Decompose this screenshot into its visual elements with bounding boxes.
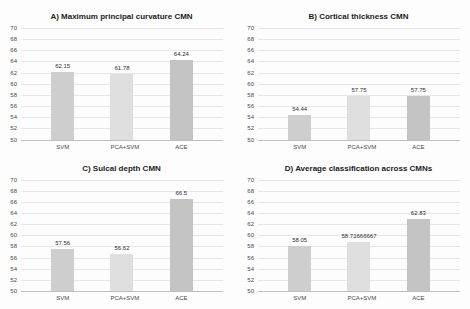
bar-slot-pca-svm: 56.62 [110, 180, 133, 292]
bar-svm [51, 249, 74, 291]
chart-area-d: 7068666462605856545250 58.0558.716666676… [243, 180, 460, 292]
bar-svm [288, 115, 311, 140]
x-axis-line [21, 291, 223, 292]
y-tick-label: 70 [247, 25, 254, 31]
x-axis-line [258, 291, 460, 292]
y-tick-label: 68 [247, 36, 254, 42]
bar-slot-ace: 66.5 [170, 180, 193, 292]
x-axis-line [21, 140, 223, 141]
x-axis: SVMPCA+SVMACE [258, 291, 460, 301]
bars: 57.5656.6266.5 [21, 180, 223, 292]
bar-slot-svm: 57.56 [51, 180, 74, 292]
y-tick-label: 56 [10, 255, 17, 261]
y-tick-label: 54 [10, 266, 17, 272]
bar-slot-ace: 64.24 [170, 28, 193, 140]
x-category-label: PCA+SVM [110, 295, 133, 301]
chart-area-b: 7068666462605856545250 54.4457.7557.75 [243, 28, 460, 140]
bar-value-label: 62.15 [55, 63, 70, 69]
x-category-label: SVM [51, 144, 74, 150]
bar-value-label: 58.05 [292, 237, 307, 243]
x-category-label: ACE [407, 295, 430, 301]
x-category-label: SVM [288, 295, 311, 301]
bar-slot-ace: 57.75 [407, 28, 430, 140]
y-tick-label: 66 [10, 47, 17, 53]
chart-title-b: B) Cortical thickness CMN [257, 12, 460, 21]
y-tick-label: 70 [10, 177, 17, 183]
x-category-label: ACE [407, 144, 430, 150]
plot-area: 58.0558.7166666762.83 [258, 180, 460, 292]
y-tick-label: 54 [247, 114, 254, 120]
y-tick-label: 58 [247, 243, 254, 249]
y-tick-label: 66 [247, 199, 254, 205]
y-axis: 7068666462605856545250 [6, 180, 21, 292]
y-tick-label: 64 [10, 58, 17, 64]
y-axis: 7068666462605856545250 [243, 28, 258, 140]
y-tick-label: 70 [10, 25, 17, 31]
x-axis: SVMPCA+SVMACE [21, 291, 223, 301]
bar-value-label: 57.75 [411, 87, 426, 93]
bar-pca-svm [347, 96, 370, 139]
y-tick-label: 58 [10, 243, 17, 249]
bars: 58.0558.7166666762.83 [258, 180, 460, 292]
chart-panel-a: A) Maximum principal curvature CMN 70686… [6, 6, 223, 150]
y-tick-label: 56 [10, 103, 17, 109]
bar-slot-svm: 54.44 [288, 28, 311, 140]
bar-svm [288, 246, 311, 291]
y-tick-label: 68 [247, 188, 254, 194]
bar-slot-ace: 62.83 [407, 180, 430, 292]
x-category-label: PCA+SVM [110, 144, 133, 150]
y-tick-label: 64 [247, 210, 254, 216]
bar-slot-svm: 58.05 [288, 180, 311, 292]
y-tick-label: 62 [247, 70, 254, 76]
y-tick-label: 50 [10, 288, 17, 294]
chart-area-c: 7068666462605856545250 57.5656.6266.5 [6, 180, 223, 292]
y-tick-label: 62 [10, 70, 17, 76]
y-tick-label: 64 [247, 58, 254, 64]
x-axis: SVMPCA+SVMACE [21, 140, 223, 150]
y-tick-label: 62 [10, 221, 17, 227]
chart-title-c: C) Sulcal depth CMN [20, 164, 223, 173]
y-tick-label: 66 [247, 47, 254, 53]
bar-ace [407, 219, 430, 291]
x-axis: SVMPCA+SVMACE [258, 140, 460, 150]
bar-value-label: 62.83 [411, 210, 426, 216]
y-tick-label: 60 [10, 81, 17, 87]
chart-title-d: D) Average classification across CMNs [257, 164, 460, 173]
bar-value-label: 57.56 [55, 240, 70, 246]
plot-area: 62.1561.7864.24 [21, 28, 223, 140]
chart-panel-d: D) Average classification across CMNs 70… [243, 158, 460, 302]
y-tick-label: 58 [10, 92, 17, 98]
y-tick-label: 68 [10, 188, 17, 194]
bar-pca-svm [110, 254, 133, 291]
y-tick-label: 56 [247, 255, 254, 261]
y-tick-label: 50 [247, 288, 254, 294]
y-tick-label: 52 [247, 125, 254, 131]
chart-area-a: 7068666462605856545250 62.1561.7864.24 [6, 28, 223, 140]
bar-pca-svm [110, 74, 133, 140]
x-category-label: ACE [170, 295, 193, 301]
y-tick-label: 52 [247, 277, 254, 283]
plot-area: 57.5656.6266.5 [21, 180, 223, 292]
y-tick-label: 66 [10, 199, 17, 205]
y-tick-label: 54 [247, 266, 254, 272]
bar-value-label: 58.71666667 [341, 233, 376, 239]
y-tick-label: 50 [247, 137, 254, 143]
x-category-label: PCA+SVM [347, 295, 370, 301]
bar-ace [407, 96, 430, 139]
y-tick-label: 60 [10, 232, 17, 238]
bar-slot-pca-svm: 58.71666667 [347, 180, 370, 292]
chart-title-a: A) Maximum principal curvature CMN [20, 12, 223, 21]
bar-slot-pca-svm: 61.78 [110, 28, 133, 140]
y-tick-label: 70 [247, 177, 254, 183]
y-tick-label: 54 [10, 114, 17, 120]
bars: 54.4457.7557.75 [258, 28, 460, 140]
y-tick-label: 60 [247, 232, 254, 238]
y-tick-label: 50 [10, 137, 17, 143]
bar-value-label: 64.24 [174, 51, 189, 57]
bar-ace [170, 199, 193, 291]
bar-value-label: 54.44 [292, 106, 307, 112]
y-axis: 7068666462605856545250 [6, 28, 21, 140]
y-tick-label: 60 [247, 81, 254, 87]
bar-value-label: 66.5 [175, 190, 187, 196]
x-category-label: PCA+SVM [347, 144, 370, 150]
